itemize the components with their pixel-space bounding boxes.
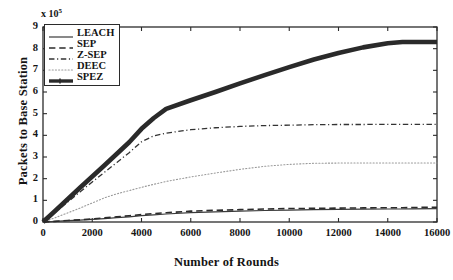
y-tick-label: 6	[18, 85, 38, 96]
x-tick-label: 10000	[266, 227, 312, 238]
legend-line-sample-z-sep	[48, 50, 74, 60]
x-tick-label: 6000	[168, 227, 214, 238]
x-tick-label: 2000	[69, 227, 115, 238]
y-tick-label: 3	[18, 150, 38, 161]
legend-label: SPEZ	[77, 72, 103, 82]
y-axis-multiplier: x 105	[41, 7, 62, 19]
x-tick-label: 14000	[365, 227, 411, 238]
series-line-deec	[43, 163, 437, 222]
legend-item-leach[interactable]: LEACH	[48, 27, 114, 38]
x-tick-label: 0	[20, 227, 66, 238]
y-tick-label: 1	[18, 193, 38, 204]
legend-item-deec[interactable]: DEEC	[48, 60, 114, 71]
y-tick-label: 9	[18, 20, 38, 31]
legend-line-sample-spez	[48, 72, 74, 82]
y-tick-label: 4	[18, 128, 38, 139]
legend-label: Z-SEP	[77, 50, 107, 60]
chart-legend: LEACHSEPZ-SEPDEECSPEZ	[44, 24, 120, 86]
legend-item-sep[interactable]: SEP	[48, 38, 114, 49]
y-tick-label: 7	[18, 63, 38, 74]
x-tick-label: 4000	[119, 227, 165, 238]
x-tick-label: 12000	[316, 227, 362, 238]
x-tick-label: 16000	[414, 227, 453, 238]
y-tick-label: 8	[18, 42, 38, 53]
legend-label: DEEC	[77, 61, 106, 71]
y-tick-label: 0	[18, 215, 38, 226]
y-tick-label: 5	[18, 107, 38, 118]
legend-label: SEP	[77, 39, 96, 49]
legend-label: LEACH	[77, 28, 114, 38]
chart-figure: x 105 Packets to Base Station Number of …	[0, 0, 453, 280]
legend-item-spez[interactable]: SPEZ	[48, 71, 114, 82]
y-axis-title: Packets to Base Station	[16, 57, 30, 186]
legend-line-sample-sep	[48, 39, 74, 49]
legend-line-sample-deec	[48, 61, 74, 71]
series-line-z-sep	[43, 124, 437, 222]
legend-line-sample-leach	[48, 28, 74, 38]
y-tick-label: 2	[18, 172, 38, 183]
x-tick-label: 8000	[217, 227, 263, 238]
legend-item-z-sep[interactable]: Z-SEP	[48, 49, 114, 60]
x-axis-title: Number of Rounds	[0, 255, 453, 270]
